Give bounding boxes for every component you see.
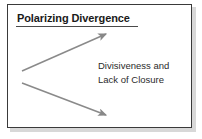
diagram-frame: Polarizing Divergence Divisiveness and L… <box>7 4 192 128</box>
downward-divergence-arrow <box>22 83 106 115</box>
caption-line-1: Divisiveness and <box>98 59 169 73</box>
slide-root: Polarizing Divergence Divisiveness and L… <box>0 0 202 139</box>
divergence-caption: Divisiveness and Lack of Closure <box>98 59 169 87</box>
upward-divergence-arrow <box>22 34 106 71</box>
caption-line-2: Lack of Closure <box>98 73 169 87</box>
